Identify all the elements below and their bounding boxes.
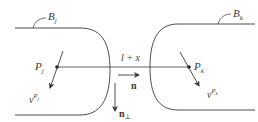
velocity-pj-label: νPj <box>29 92 39 105</box>
contact-diagram: Bj Bk l + x Pj νPj Pk νPk n n⊥ <box>0 0 258 122</box>
body-bk-label: Bk <box>233 7 244 22</box>
normal-label: n <box>131 80 137 91</box>
normal-perp-label: n⊥ <box>119 108 131 121</box>
velocity-pj-arrow <box>50 51 63 88</box>
body-bj-label: Bj <box>48 10 57 25</box>
point-pj-label: Pj <box>34 60 44 75</box>
velocity-pk-label: νPk <box>207 87 218 100</box>
body-bk-label-leader <box>218 14 231 24</box>
point-pk-label: Pk <box>193 60 205 75</box>
distance-label: l + x <box>121 52 141 63</box>
body-bj-label-leader <box>33 18 46 28</box>
